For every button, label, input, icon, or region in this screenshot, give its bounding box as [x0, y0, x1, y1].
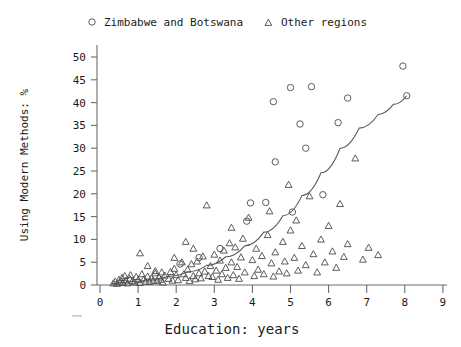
- x-tick-label: 3: [211, 296, 218, 309]
- x-tick-label: 6: [325, 296, 332, 309]
- legend-item-zimbabwe-and-botswana: Zimbabwe and Botswana: [89, 16, 243, 29]
- y-axis-title: Using Modern Methods: %: [18, 88, 31, 241]
- x-tick-label: 2: [173, 296, 180, 309]
- legend-item-other-regions: Other regions: [265, 16, 367, 29]
- x-tick-label: 5: [287, 296, 294, 309]
- y-tick-label: 45: [73, 74, 86, 87]
- y-tick-label: 50: [73, 51, 86, 64]
- y-tick-label: 5: [79, 256, 86, 269]
- legend-label-other-regions: Other regions: [281, 16, 367, 29]
- y-tick-label: 10: [73, 233, 86, 246]
- y-tick-label: 0: [79, 279, 86, 292]
- x-tick-label: 0: [97, 296, 104, 309]
- y-tick-label: 25: [73, 165, 86, 178]
- scatter-chart: Zimbabwe and Botswana Other regions 0 5 …: [0, 0, 461, 347]
- x-tick-label: 1: [135, 296, 142, 309]
- y-tick-label: 20: [73, 188, 86, 201]
- chart-legend: Zimbabwe and Botswana Other regions: [89, 16, 367, 29]
- x-tick-label: 7: [363, 296, 370, 309]
- y-tick-label: 40: [73, 97, 86, 110]
- x-tick-label: 8: [401, 296, 408, 309]
- chart-background: [0, 0, 461, 347]
- x-tick-label: 9: [440, 296, 447, 309]
- legend-label-zimbabwe-and-botswana: Zimbabwe and Botswana: [104, 16, 243, 29]
- x-axis-title: Education: years: [165, 321, 300, 337]
- y-tick-label: 15: [73, 211, 86, 224]
- x-tick-label: 4: [249, 296, 256, 309]
- y-tick-label: 30: [73, 142, 86, 155]
- y-tick-label: 35: [73, 119, 86, 132]
- chart-canvas: Zimbabwe and Botswana Other regions 0 5 …: [0, 0, 461, 347]
- scan-artifact: [72, 315, 82, 317]
